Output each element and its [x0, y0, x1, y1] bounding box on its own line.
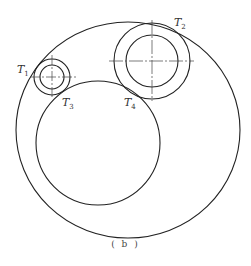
label-t3: T3	[62, 96, 74, 111]
circles-diagram	[0, 0, 251, 266]
middle-circle	[36, 81, 160, 205]
label-t4: T4	[124, 96, 136, 111]
label-t4-sub: 4	[131, 103, 135, 111]
small-circle-group	[30, 55, 78, 99]
large-circle-group	[109, 20, 194, 101]
figure-caption: ( b )	[0, 239, 251, 249]
label-t2-sub: 2	[181, 23, 185, 31]
outer-circle	[16, 22, 240, 238]
label-t1: T1	[17, 63, 29, 78]
label-t3-sub: 3	[69, 103, 73, 111]
label-t1-sub: 1	[24, 70, 28, 78]
label-t2: T2	[174, 16, 186, 31]
